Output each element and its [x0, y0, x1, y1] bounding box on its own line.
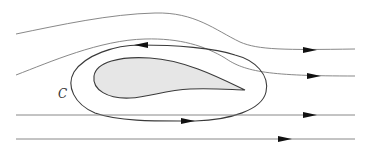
arrowhead-right-icon: [278, 136, 292, 142]
contour-label: C: [58, 87, 67, 101]
streamline-4: [16, 136, 355, 142]
airfoil-flow-diagram: C: [0, 0, 373, 148]
arrowhead-left-icon: [134, 42, 148, 48]
arrowhead-right-icon: [303, 112, 317, 118]
streamline-3: [16, 112, 355, 118]
airfoil-body: [94, 58, 245, 98]
arrowhead-right-icon: [181, 118, 195, 124]
arrowhead-right-icon: [303, 47, 317, 53]
arrowhead-right-icon: [307, 73, 321, 79]
